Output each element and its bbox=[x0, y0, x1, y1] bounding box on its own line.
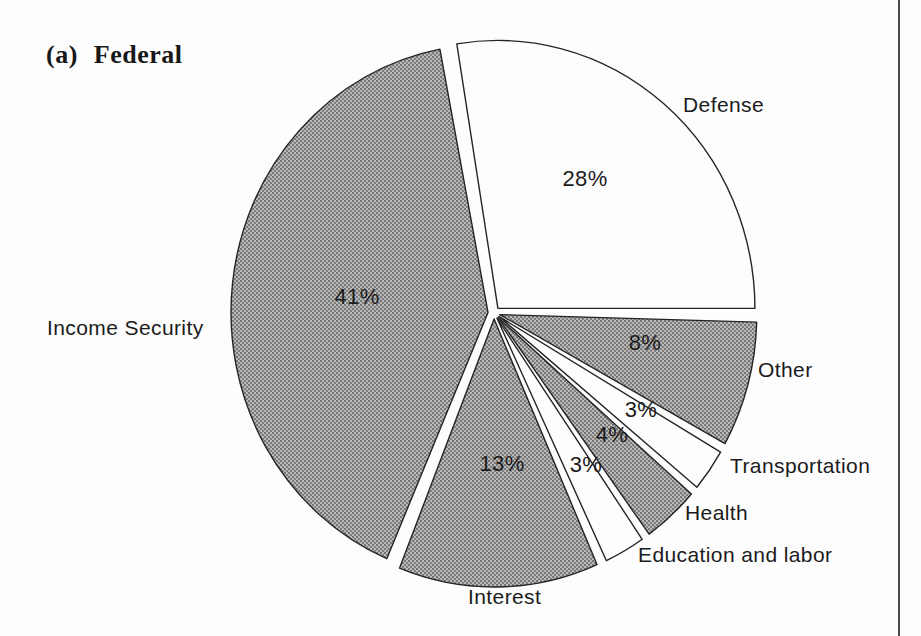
percent-label-transportation: 3% bbox=[625, 397, 658, 423]
slice-label-transportation: Transportation bbox=[730, 454, 870, 478]
percent-label-income-security: 41% bbox=[334, 284, 379, 310]
percent-label-defense: 28% bbox=[562, 166, 607, 192]
slice-label-interest: Interest bbox=[468, 585, 541, 609]
scanned-figure-page: (a) Federal 28% 8% 3% 4% 3% 13% 41% Defe… bbox=[0, 0, 921, 636]
percent-label-health: 4% bbox=[596, 422, 629, 448]
slice-label-other: Other bbox=[758, 358, 813, 382]
percent-label-education-and-labor: 3% bbox=[570, 452, 603, 478]
percent-label-other: 8% bbox=[629, 330, 662, 356]
slice-label-health: Health bbox=[685, 501, 748, 525]
page-border-line bbox=[898, 0, 900, 636]
slice-label-defense: Defense bbox=[683, 93, 764, 117]
percent-label-interest: 13% bbox=[479, 451, 524, 477]
slice-label-education-and-labor: Education and labor bbox=[638, 543, 832, 567]
slice-label-income-security: Income Security bbox=[47, 316, 204, 340]
